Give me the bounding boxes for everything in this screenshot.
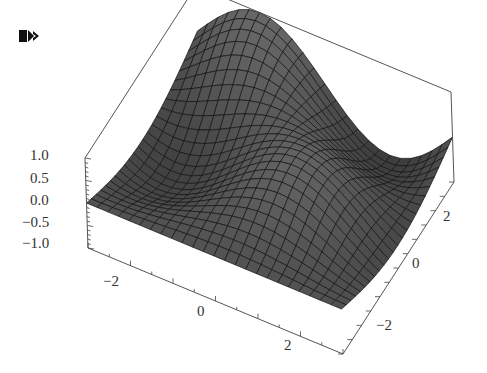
y-tick-0: 0 [412, 255, 420, 271]
y-tick-neg2: −2 [376, 317, 392, 333]
z-tick-0.5: 0.5 [30, 170, 49, 186]
y-tick-2: 2 [443, 208, 451, 224]
x-tick-0: 0 [197, 303, 205, 319]
surface-plot-3d[interactable]: 1.0 0.5 0.0 −0.5 −1.0 −2 0 2 2 0 −2 [0, 0, 487, 373]
x-tick-neg2: −2 [103, 273, 119, 289]
x-axis-labels: −2 0 2 [103, 273, 292, 353]
z-tick-neg1.0: −1.0 [22, 235, 49, 251]
z-tick-1.0: 1.0 [30, 147, 49, 163]
surface [87, 10, 453, 309]
z-tick-neg0.5: −0.5 [22, 214, 49, 230]
z-axis-labels: 1.0 0.5 0.0 −0.5 −1.0 [22, 147, 49, 251]
x-tick-2: 2 [284, 337, 292, 353]
z-tick-0.0: 0.0 [30, 192, 49, 208]
